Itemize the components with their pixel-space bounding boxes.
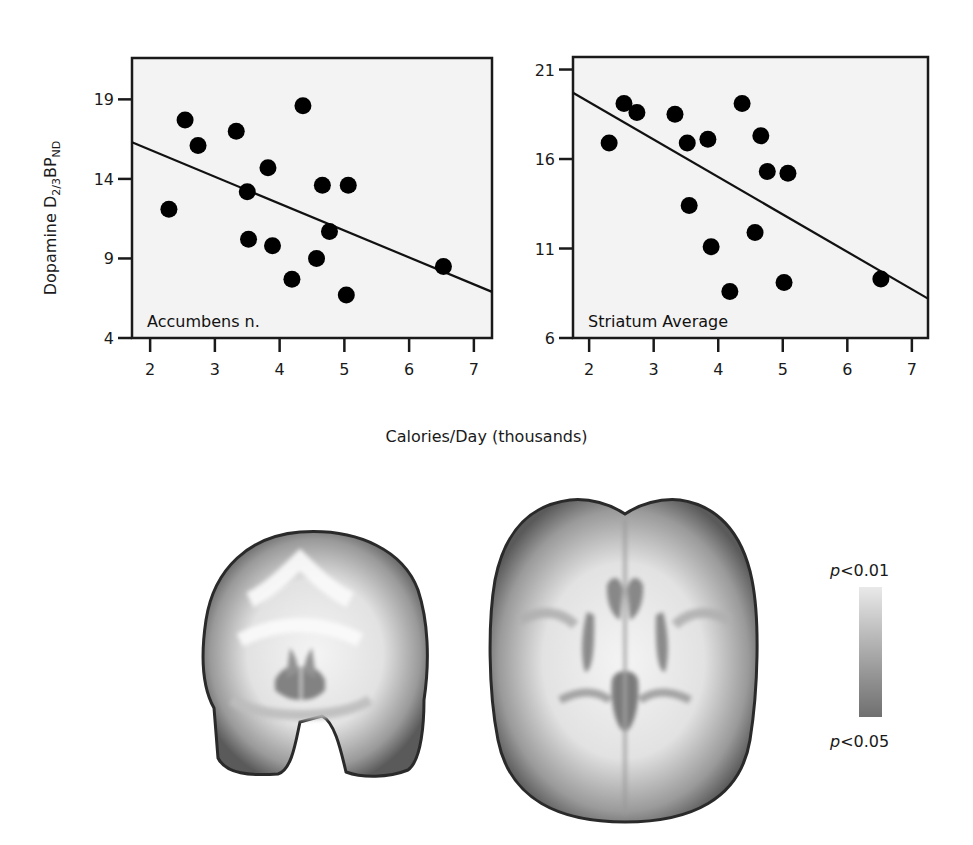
significance-colorbar bbox=[859, 587, 882, 717]
legend-label-low: p<0.05 bbox=[830, 732, 889, 751]
axial-brain-image bbox=[490, 500, 757, 822]
coronal-brain-image bbox=[203, 532, 427, 777]
brain-images bbox=[0, 0, 973, 845]
legend-label-high: p<0.01 bbox=[830, 561, 889, 580]
